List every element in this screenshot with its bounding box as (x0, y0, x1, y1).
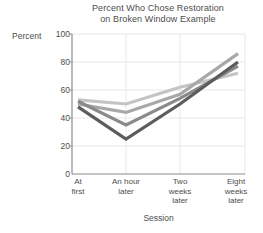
x-tick-at-first-line2: first (72, 187, 85, 196)
x-axis-label: Session (72, 213, 245, 223)
x-tick-eight-weeks-line1: Eight (227, 177, 245, 186)
x-tick-label-two-weeks-later: Two weeks later (153, 177, 207, 206)
axis-lines (69, 34, 245, 174)
x-tick-at-first-line1: At (74, 177, 82, 186)
chart-container: Percent Who Chose Restoration on Broken … (0, 0, 263, 233)
x-tick-eight-weeks-line3: later (228, 196, 244, 205)
x-tick-an-hour-line2: later (118, 187, 134, 196)
x-tick-an-hour-line1: An hour (112, 177, 140, 186)
grid-lines (72, 34, 245, 174)
x-tick-two-weeks-line3: later (172, 196, 188, 205)
x-tick-two-weeks-line1: Two (173, 177, 188, 186)
x-tick-label-an-hour-later: An hour later (99, 177, 153, 196)
x-tick-label-at-first: At first (51, 177, 105, 196)
data-series-group (78, 54, 238, 139)
x-tick-eight-weeks-line2: weeks (225, 187, 248, 196)
x-tick-label-eight-weeks-later: Eight weeks later (209, 177, 263, 206)
x-tick-two-weeks-line2: weeks (169, 187, 192, 196)
